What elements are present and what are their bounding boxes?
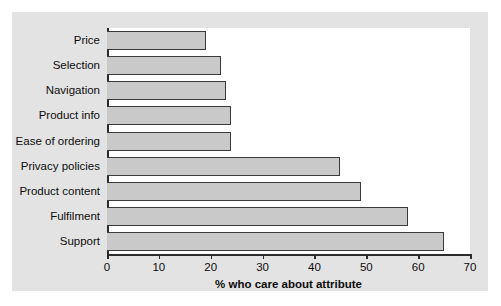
bar-category-label: Ease of ordering <box>16 129 100 154</box>
bar-row: Privacy policies <box>107 154 340 179</box>
bar-row: Ease of ordering <box>107 129 231 154</box>
x-tick-mark <box>470 254 472 259</box>
bar <box>107 81 226 100</box>
bar-row: Selection <box>107 53 221 78</box>
x-tick-mark <box>314 254 316 259</box>
bar-row: Navigation <box>107 78 226 103</box>
x-tick-mark <box>418 254 420 259</box>
bar <box>107 106 231 125</box>
x-tick-mark <box>211 254 213 259</box>
bar-row: Product info <box>107 103 231 128</box>
x-tick-label: 50 <box>360 261 373 273</box>
bar <box>107 31 206 50</box>
bar <box>107 207 408 226</box>
bar <box>107 232 444 251</box>
x-tick-label: 60 <box>412 261 425 273</box>
bar-category-label: Navigation <box>46 78 100 103</box>
bar-category-label: Product content <box>19 179 100 204</box>
x-tick-label: 40 <box>308 261 321 273</box>
x-tick-mark <box>159 254 161 259</box>
x-tick-label: 30 <box>256 261 269 273</box>
bar-row: Support <box>107 229 444 254</box>
x-tick-label: 70 <box>464 261 477 273</box>
bar-category-label: Selection <box>53 53 100 78</box>
x-axis-title: % who care about attribute <box>107 278 470 290</box>
x-tick-label: 20 <box>204 261 217 273</box>
chart-figure: PriceSelectionNavigationProduct infoEase… <box>12 12 488 291</box>
bar-category-label: Product info <box>39 103 100 128</box>
bar <box>107 56 221 75</box>
x-tick-mark <box>366 254 368 259</box>
bar <box>107 157 340 176</box>
x-tick-label: 10 <box>152 261 165 273</box>
x-tick-mark <box>107 254 109 259</box>
bar-category-label: Fulfilment <box>50 204 100 229</box>
bar-category-label: Price <box>74 28 100 53</box>
bar-row: Fulfilment <box>107 204 408 229</box>
bar-row: Price <box>107 28 206 53</box>
bar-category-label: Support <box>60 229 100 254</box>
x-axis-line <box>107 254 470 256</box>
x-tick-label: 0 <box>104 261 110 273</box>
bar <box>107 132 231 151</box>
bar <box>107 182 361 201</box>
bar-category-label: Privacy policies <box>21 154 100 179</box>
x-tick-mark <box>263 254 265 259</box>
bar-row: Product content <box>107 179 361 204</box>
